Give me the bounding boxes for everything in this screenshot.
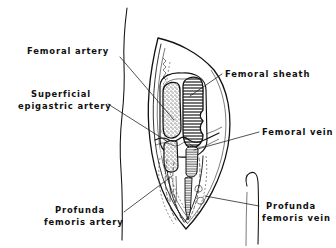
label-femoral-artery-line1: Femoral artery <box>27 46 109 56</box>
label-superficial-epigastric-artery-line1: Superficial <box>31 89 91 99</box>
label-femoral-vein: Femoral vein <box>262 127 333 137</box>
anatomical-figure: Femoral artery Superficial epigastric ar… <box>0 0 336 248</box>
label-femoral-sheath: Femoral sheath <box>225 69 310 79</box>
label-femoral-sheath-line1: Femoral sheath <box>225 69 310 79</box>
label-profunda-femoris-artery-line2: femoris artery <box>44 217 124 227</box>
label-profunda-femoris-vein-line1: Profunda <box>266 201 316 211</box>
label-profunda-femoris-vein-line2: femoris vein <box>262 213 331 223</box>
label-femoral-vein-line1: Femoral vein <box>262 127 333 137</box>
figure-canvas: Femoral artery Superficial epigastric ar… <box>0 0 336 248</box>
label-profunda-femoris-artery-line1: Profunda <box>55 205 105 215</box>
label-femoral-artery: Femoral artery <box>27 46 109 56</box>
label-superficial-epigastric-artery-line2: epigastric artery <box>18 101 112 111</box>
